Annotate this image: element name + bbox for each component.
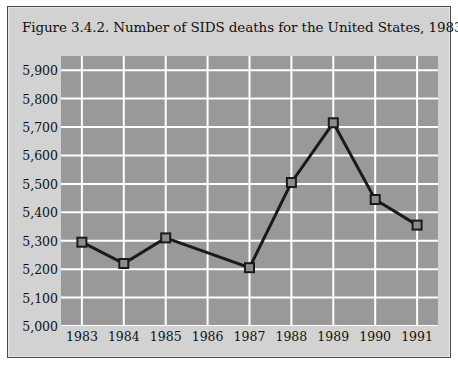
data-point-marker xyxy=(119,259,128,268)
x-axis-tick-label: 1990 xyxy=(359,329,391,344)
x-axis-tick-label: 1991 xyxy=(401,329,433,344)
series-sids-deaths xyxy=(61,56,438,326)
figure-frame: Figure 3.4.2. Number of SIDS deaths for … xyxy=(7,6,451,358)
x-axis-tick-label: 1988 xyxy=(275,329,307,344)
x-axis-tick-label: 1984 xyxy=(108,329,140,344)
y-axis-tick-label: 5,700 xyxy=(22,120,58,135)
data-point-marker xyxy=(287,178,296,187)
series-line xyxy=(82,123,417,268)
x-axis-tick-label: 1986 xyxy=(192,329,224,344)
y-axis-tick-label: 5,500 xyxy=(22,176,58,191)
y-axis-tick-label: 5,900 xyxy=(22,63,58,78)
y-axis-tick-label: 5,600 xyxy=(22,148,58,163)
y-axis-tick-label: 5,200 xyxy=(22,262,58,277)
x-axis-tick-label: 1985 xyxy=(150,329,182,344)
y-axis-tick-label: 5,800 xyxy=(22,91,58,106)
data-point-marker xyxy=(77,238,86,247)
x-axis-tick-label: 1989 xyxy=(317,329,349,344)
data-point-marker xyxy=(245,263,254,272)
data-point-marker xyxy=(413,221,422,230)
y-axis-tick-label: 5,400 xyxy=(22,205,58,220)
y-axis-tick-label: 5,000 xyxy=(22,319,58,334)
data-point-marker xyxy=(161,233,170,242)
y-axis-labels: 5,9005,8005,7005,6005,5005,4005,3005,200… xyxy=(14,56,58,326)
y-axis-tick-label: 5,100 xyxy=(22,290,58,305)
data-point-marker xyxy=(329,118,338,127)
x-axis-tick-label: 1987 xyxy=(234,329,266,344)
y-axis-tick-label: 5,300 xyxy=(22,233,58,248)
data-point-marker xyxy=(371,195,380,204)
figure-title: Figure 3.4.2. Number of SIDS deaths for … xyxy=(22,19,442,35)
x-axis-labels: 198319841985198619871988198919901991 xyxy=(61,329,438,351)
chart-plot-area xyxy=(61,56,438,326)
x-axis-tick-label: 1983 xyxy=(66,329,98,344)
